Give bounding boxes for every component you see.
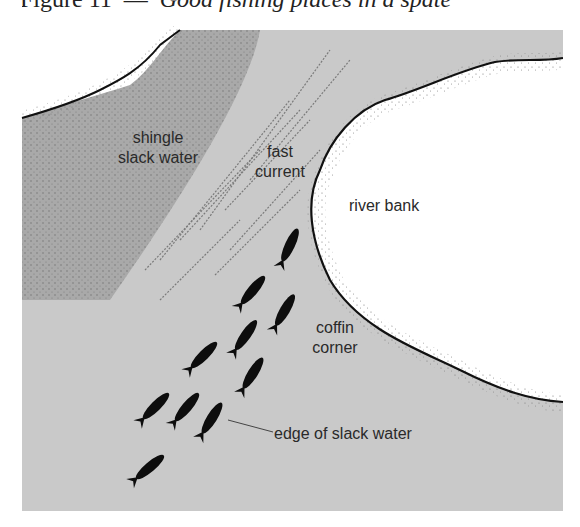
label-corner: corner [295, 338, 375, 358]
shingle-slack-water-label: shingle slack water [88, 128, 228, 168]
label-coffin: coffin [295, 318, 375, 338]
label-shingle: shingle [88, 128, 228, 148]
label-fast: fast [240, 142, 320, 162]
river-bank-label: river bank [349, 196, 419, 216]
coffin-corner-label: coffin corner [295, 318, 375, 358]
label-current: current [240, 162, 320, 182]
fast-current-label: fast current [240, 142, 320, 182]
label-slack-water: slack water [88, 148, 228, 168]
river-diagram [0, 0, 580, 527]
edge-of-slack-water-label: edge of slack water [274, 424, 412, 444]
